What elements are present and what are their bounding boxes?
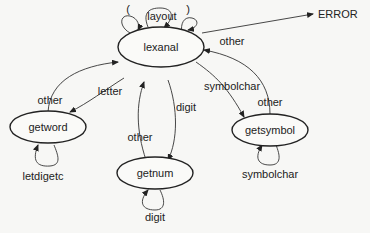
label-layout: layout — [147, 10, 176, 22]
edge-lexanal-to-getnum — [168, 80, 176, 160]
label-open-paren: ( — [126, 3, 130, 15]
node-getnum: getnum — [117, 157, 193, 189]
label-close-paren: ) — [186, 3, 190, 15]
node-error-label: ERROR — [318, 8, 358, 20]
node-getword: getword — [10, 111, 86, 143]
label-lexanal-to-getsymbol: symbolchar — [204, 80, 261, 92]
label-lexanal-to-getnum: digit — [176, 101, 196, 113]
node-lexanal: lexanal — [118, 27, 204, 67]
edge-lexanal-to-error — [202, 14, 313, 33]
label-getword-to-lexanal: other — [37, 94, 62, 106]
label-getnum-to-lexanal: other — [127, 131, 152, 143]
label-getsymbol-self: symbolchar — [242, 168, 299, 180]
node-getsymbol-label: getsymbol — [245, 124, 295, 136]
node-lexanal-label: lexanal — [144, 41, 179, 53]
node-getword-label: getword — [28, 121, 67, 133]
edge-getnum-self — [142, 190, 163, 210]
label-lexanal-to-getword: letter — [98, 85, 123, 97]
edge-getsymbol-self — [258, 145, 279, 165]
edge-getnum-to-lexanal — [138, 82, 146, 160]
state-diagram: lexanal getword getnum getsymbol ERROR (… — [0, 0, 370, 233]
label-getsymbol-to-lexanal: other — [257, 96, 282, 108]
label-getnum-self: digit — [145, 211, 165, 223]
edge-getword-self — [35, 145, 58, 166]
node-getsymbol: getsymbol — [232, 114, 308, 146]
label-lexanal-to-error: other — [219, 35, 244, 47]
label-getword-self: letdigetc — [23, 170, 64, 182]
node-getnum-label: getnum — [137, 167, 174, 179]
